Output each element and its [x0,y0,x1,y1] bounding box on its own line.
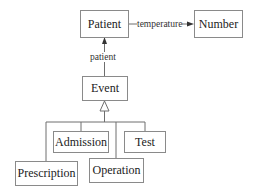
class-event[interactable]: Event [82,76,128,101]
class-operation-label: Operation [93,163,141,178]
class-number[interactable]: Number [194,10,243,38]
temperature-label: temperature [137,19,182,29]
class-event-label: Event [91,81,119,96]
class-patient[interactable]: Patient [80,10,129,38]
class-test-label: Test [135,135,155,150]
arrowhead-icon [102,37,107,44]
class-admission-label: Admission [55,135,107,150]
class-admission[interactable]: Admission [53,131,109,153]
class-operation[interactable]: Operation [89,158,144,183]
class-number-label: Number [199,17,238,32]
patient-label: patient [90,52,116,62]
generalization-triangle-icon [100,101,109,111]
arrowhead-icon [187,22,194,27]
class-test[interactable]: Test [124,131,166,153]
class-prescription[interactable]: Prescription [15,161,78,186]
class-prescription-label: Prescription [18,166,76,181]
class-patient-label: Patient [88,17,121,32]
